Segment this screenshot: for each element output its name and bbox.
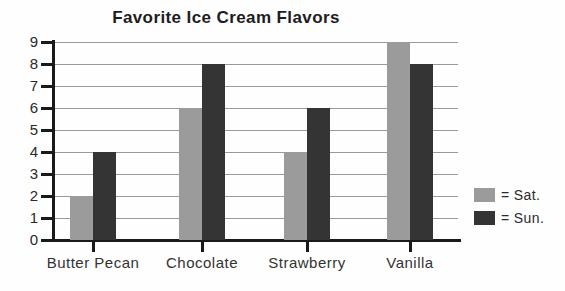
y-tick-label-6: 6 [8,100,38,116]
bar-sat--chocolate [179,108,202,240]
y-tick-label-0: 0 [8,232,38,248]
bar-sat--vanilla [387,42,410,240]
legend-swatch-sat-icon [474,188,495,202]
category-label-butter-pecan: Butter Pecan [47,254,140,271]
y-tick-label-1: 1 [8,210,38,226]
x-axis-tick-vanilla [409,242,412,252]
legend-item-sat: = Sat. [474,187,544,203]
y-tick-label-2: 2 [8,188,38,204]
worksheet-page: Favorite Ice Cream Flavors 0123456789But… [0,0,565,291]
bar-sun--strawberry [307,108,330,240]
category-label-strawberry: Strawberry [268,254,346,271]
y-tick-label-7: 7 [8,78,38,94]
bar-sun--vanilla [410,64,433,240]
x-axis-tick-butter-pecan [92,242,95,252]
bar-sun--chocolate [202,64,225,240]
legend-swatch-sun-icon [474,211,495,225]
y-tick-label-9: 9 [8,34,38,50]
y-tick-label-8: 8 [8,56,38,72]
y-tick-label-3: 3 [8,166,38,182]
legend-label-sat: = Sat. [501,187,540,203]
x-axis-tick-chocolate [201,242,204,252]
category-label-vanilla: Vanilla [386,254,433,271]
y-axis-line [52,40,55,242]
legend-item-sun: = Sun. [474,210,544,226]
y-tick-label-4: 4 [8,144,38,160]
plot-area: 0123456789Butter PecanChocolateStrawberr… [0,0,565,291]
bar-sat--butter-pecan [70,196,93,240]
x-axis-tick-strawberry [306,242,309,252]
category-label-chocolate: Chocolate [166,254,238,271]
y-tick-label-5: 5 [8,122,38,138]
bar-sun--butter-pecan [93,152,116,240]
legend: = Sat. = Sun. [474,187,544,233]
bar-sat--strawberry [284,152,307,240]
legend-label-sun: = Sun. [501,210,544,226]
